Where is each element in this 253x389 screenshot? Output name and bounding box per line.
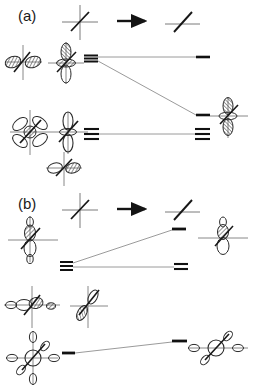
orbital-planar-complex-b-right	[188, 330, 248, 367]
crossed-axes-with-slash-icon-a-left	[62, 5, 98, 40]
orbital-d-z2-hatched-a-right	[210, 98, 248, 139]
orbital-d-z2-open-a-lower	[52, 112, 88, 154]
orbital-sigma-star-b-left	[8, 216, 58, 264]
correlation-line-b-bottom	[75, 342, 172, 353]
energy-level-double-b-mid-right	[174, 264, 188, 269]
energy-level-triple-b-mid-left	[60, 262, 73, 270]
energy-level-triple-a-upper-left	[84, 56, 98, 62]
orbital-d-four-lobe-hatched-a	[4, 45, 43, 80]
orbital-correlation-figure: (a) (b)	[0, 0, 253, 389]
orbital-d-two-lobe-diagonal-b-mid	[70, 286, 108, 328]
horizontal-axis-with-slash-icon-b-right	[165, 200, 200, 220]
energy-level-triple-a-lower-left	[84, 129, 99, 139]
orbital-octahedral-complex-b-left	[6, 332, 60, 386]
orbital-d-z2-hatched-a	[48, 42, 84, 84]
correlation-line-a-upper-to-mid	[98, 61, 196, 115]
orbital-d-four-lobe-open-a-lower	[10, 110, 52, 155]
horizontal-axis-with-slash-icon-a-right	[165, 12, 200, 32]
orbital-d-two-lobe-hatched-a-bottom	[46, 152, 82, 186]
crossed-axes-with-slash-icon-b-left	[62, 193, 98, 228]
diagram-canvas	[0, 0, 253, 389]
correlation-line-b-mid-to-upper	[73, 230, 172, 263]
energy-level-triple-a-lower-right	[195, 129, 210, 139]
orbital-sigma-star-b-right	[198, 217, 248, 255]
orbital-d-with-ligands-b-left	[4, 286, 60, 328]
